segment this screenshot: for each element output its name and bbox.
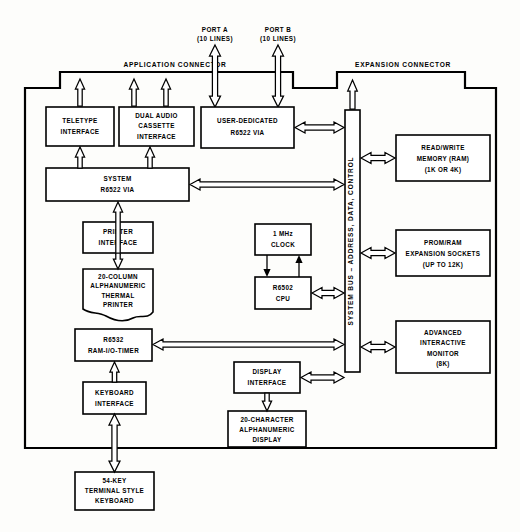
- teletype-connector-arrow: [75, 79, 84, 106]
- diagram-page: APPLICATION CONNECTOR EXPANSION CONNECTO…: [0, 0, 520, 532]
- user-dedicated-via-line-2: R6522 VIA: [231, 129, 265, 136]
- clock-box: [255, 224, 311, 255]
- display-interface-line-2: INTERFACE: [248, 379, 287, 386]
- monitor-line-4: (8K): [436, 360, 450, 368]
- teletype-to-system-via-arrow: [75, 147, 84, 168]
- thermal-printer-line-4: PRINTER: [103, 301, 133, 308]
- thermal-printer-line-2: ALPHANUMERIC: [90, 282, 145, 289]
- cassette-connector-arrow-left: [129, 79, 138, 106]
- display-interface-to-display-arrow: [262, 393, 271, 411]
- system-via-line-2: R6522 VIA: [101, 186, 135, 193]
- keyboard-line-3: KEYBOARD: [95, 497, 134, 504]
- cassette-interface-line-1: DUAL AUDIO: [135, 112, 178, 119]
- printer-to-thermal-arrow: [113, 253, 122, 269]
- clock-to-cpu-arrowhead: [263, 269, 270, 277]
- display-line-2: ALPHANUMERIC: [239, 426, 294, 433]
- keyboard-interface-line-2: INTERFACE: [95, 400, 134, 407]
- cpu-box: [255, 277, 311, 309]
- r6532-box: [75, 329, 152, 361]
- cpu-to-clock-arrowhead: [295, 255, 302, 263]
- system-via-box: [46, 168, 189, 201]
- ram-line-2: MEMORY (RAM): [417, 155, 469, 163]
- keyboard-line-1: 54-KEY: [102, 477, 127, 484]
- thermal-printer-line-3: THERMAL: [101, 292, 134, 299]
- cassette-to-system-via-arrow: [145, 147, 154, 168]
- monitor-line-2: INTERACTIVE: [420, 339, 466, 346]
- system-via-bus-arrow: [190, 179, 344, 190]
- r6532-line-2: RAM-I/O-TIMER: [88, 347, 139, 354]
- application-connector-label: APPLICATION CONNECTOR: [123, 61, 226, 68]
- teletype-interface-line-2: INTERFACE: [61, 128, 100, 135]
- display-interface-line-1: DISPLAY: [252, 368, 282, 375]
- monitor-line-1: ADVANCED: [424, 329, 462, 336]
- r6532-line-1: R6532: [103, 336, 123, 343]
- cpu-line-1: R6502: [273, 284, 293, 291]
- port-b-arrow: [273, 45, 284, 107]
- cpu-line-2: CPU: [276, 295, 290, 302]
- system-bus-label: SYSTEM BUS – ADDRESS, DATA, CONTROL: [347, 157, 355, 326]
- keyboard-interface-box: [83, 382, 146, 414]
- cpu-bus-arrow: [312, 288, 344, 299]
- clock-line-1: 1 MHz: [273, 230, 293, 237]
- bus-monitor-arrow: [361, 342, 395, 353]
- prom-ram-line-3: (UP TO 12K): [423, 261, 463, 269]
- port-a-arrow: [210, 45, 221, 107]
- prom-ram-line-2: EXPANSION SOCKETS: [406, 250, 481, 257]
- display-line-3: DISPLAY: [252, 436, 282, 443]
- ram-line-1: READ/WRITE: [421, 144, 464, 151]
- user-dedicated-via-box: [201, 107, 294, 148]
- display-interface-box: [234, 362, 300, 393]
- monitor-line-3: MONITOR: [427, 350, 459, 357]
- port-a-name: PORT A: [202, 26, 228, 33]
- display-interface-bus-arrow: [301, 372, 344, 383]
- bus-prom-ram-arrow: [361, 248, 395, 259]
- r6532-bus-arrow: [153, 339, 344, 350]
- expansion-connector-label: EXPANSION CONNECTOR: [355, 61, 451, 68]
- teletype-interface-box: [46, 107, 114, 146]
- user-via-bus-arrow: [295, 122, 344, 133]
- block-diagram-canvas: APPLICATION CONNECTOR EXPANSION CONNECTO…: [0, 0, 520, 532]
- cassette-interface-line-3: INTERFACE: [137, 133, 176, 140]
- ram-line-3: (1K OR 4K): [425, 166, 462, 174]
- user-dedicated-via-line-1: USER-DEDICATED: [217, 117, 278, 124]
- bus-ram-arrow: [361, 153, 395, 164]
- port-b-name: PORT B: [265, 26, 292, 33]
- bus-expansion-arrow: [348, 80, 358, 109]
- port-a-lines: (10 LINES): [197, 35, 233, 43]
- display-line-1: 20-CHARACTER: [240, 416, 293, 423]
- clock-line-2: CLOCK: [271, 241, 295, 248]
- prom-ram-line-1: PROM/RAM: [424, 239, 462, 246]
- port-b-lines: (10 LINES): [260, 35, 296, 43]
- cassette-interface-line-2: CASSETTE: [138, 122, 174, 129]
- teletype-interface-line-1: TELETYPE: [62, 117, 97, 124]
- keyboard-line-2: TERMINAL STYLE: [85, 487, 144, 494]
- thermal-printer-line-1: 20-COLUMN: [98, 273, 138, 280]
- system-via-line-1: SYSTEM: [104, 175, 132, 182]
- keyboard-to-r6532-arrow: [110, 362, 119, 382]
- cassette-connector-arrow-right: [161, 79, 170, 106]
- keyboard-interface-line-1: KEYBOARD: [95, 389, 134, 396]
- keyboard-double-arrow: [109, 414, 120, 472]
